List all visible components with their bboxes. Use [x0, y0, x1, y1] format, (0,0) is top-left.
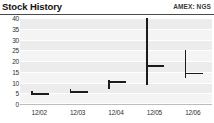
y-axis-tick-label: 40: [12, 15, 19, 22]
x-axis-tick-label: 12/03: [70, 109, 85, 116]
x-axis-tick-label: 12/02: [32, 109, 47, 116]
x-axis-tick-label: 12/04: [108, 109, 123, 116]
chart-band: [20, 29, 212, 40]
close-price-tick: [146, 65, 164, 67]
ticker-symbol: AMEX: NGS: [173, 3, 211, 10]
stock-history-widget: Stock History AMEX: NGS 0510152025303540…: [0, 0, 214, 123]
stock-history-chart: 0510152025303540 12/0212/0312/0412/0512/…: [0, 16, 214, 123]
y-axis-tick-label: 35: [12, 25, 19, 32]
gridline: [20, 29, 212, 30]
gridline: [20, 61, 212, 62]
widget-header: Stock History AMEX: NGS: [0, 0, 214, 16]
close-price-tick: [31, 93, 49, 95]
y-axis-tick-label: 20: [12, 58, 19, 65]
close-price-tick: [185, 73, 203, 75]
chart-band: [20, 50, 212, 61]
gridline: [20, 50, 212, 51]
x-axis-tick-label: 12/06: [185, 109, 200, 116]
header-divider: [0, 14, 214, 15]
y-axis-tick-label: 15: [12, 68, 19, 75]
y-axis-tick-label: 10: [12, 79, 19, 86]
chart-plot-area: [20, 18, 212, 104]
y-axis-tick-label: 5: [16, 90, 19, 97]
gridline: [20, 72, 212, 73]
y-axis-tick-label: 0: [16, 101, 19, 108]
gridline: [20, 40, 212, 41]
page-title: Stock History: [2, 1, 62, 12]
y-axis-tick-label: 30: [12, 36, 19, 43]
close-price-tick: [70, 91, 88, 93]
close-price-tick: [108, 81, 126, 83]
price-range-stem: [146, 18, 148, 85]
y-axis-tick-label: 25: [12, 47, 19, 54]
x-axis-tick-label: 12/05: [147, 109, 162, 116]
axis-baseline: [20, 104, 212, 105]
gridline: [20, 18, 212, 19]
